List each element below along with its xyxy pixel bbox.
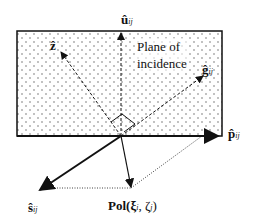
plane-label: Plane ofincidence — [137, 38, 187, 72]
pol-vector — [121, 136, 131, 187]
z-label: ẑ — [50, 38, 56, 54]
s-label: ŝij — [28, 200, 38, 216]
diagram-canvas — [0, 0, 254, 224]
g-label: ĝij — [202, 62, 213, 78]
p-label: p̂ij — [228, 126, 240, 142]
u-label: ûij — [121, 12, 133, 28]
s-vector — [40, 136, 121, 190]
plane-of-incidence — [17, 31, 222, 136]
pol-label: Pol(ξi, ζj) — [108, 198, 157, 214]
projection-p — [131, 136, 202, 188]
